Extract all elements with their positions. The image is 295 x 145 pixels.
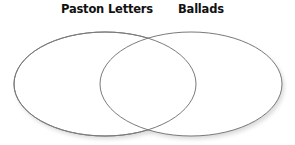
venn-diagram — [0, 0, 295, 145]
ellipse-ballads-fill — [100, 32, 282, 136]
